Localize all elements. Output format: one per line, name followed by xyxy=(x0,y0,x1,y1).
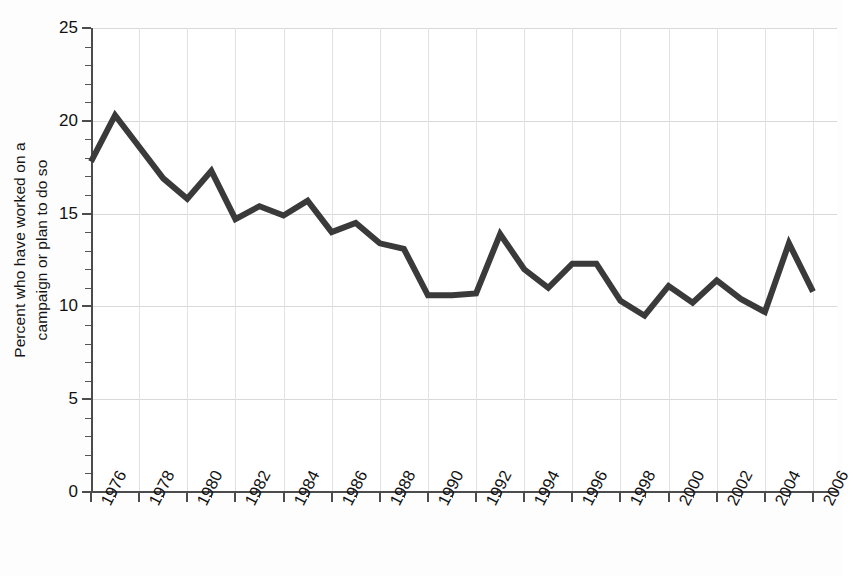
y-tick-label-0: 0 xyxy=(44,482,78,502)
plot-area xyxy=(91,28,837,492)
y-tick-10 xyxy=(82,305,91,307)
y-axis-tick-labels: 0510152025 xyxy=(26,0,78,576)
y-tick-20 xyxy=(82,120,91,122)
data-series-line xyxy=(91,28,837,492)
y-tick-label-25: 25 xyxy=(44,18,78,38)
y-tick-15 xyxy=(82,213,91,215)
y-tick-25 xyxy=(82,27,91,29)
y-tick-5 xyxy=(82,398,91,400)
y-tick-label-5: 5 xyxy=(44,389,78,409)
x-axis-tick-labels: 1976197819801982198419861988199019921994… xyxy=(91,492,851,576)
y-tick-label-10: 10 xyxy=(44,296,78,316)
y-tick-label-15: 15 xyxy=(44,204,78,224)
y-tick-label-20: 20 xyxy=(44,111,78,131)
